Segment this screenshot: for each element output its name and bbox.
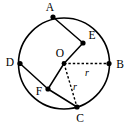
point-label-e: E (88, 29, 95, 41)
vertex-dot-e (80, 40, 85, 45)
segment-e-o (64, 43, 83, 64)
point-label-o-center: O (56, 47, 64, 59)
vertex-dot-o-center (62, 61, 67, 66)
point-label-a: A (46, 1, 55, 13)
vertex-dot-b (106, 61, 111, 66)
vertex-dot-d (17, 61, 22, 66)
vertex-dot-a (50, 14, 55, 19)
point-label-c: C (76, 112, 84, 124)
point-label-f: F (36, 85, 42, 97)
point-label-d: D (6, 56, 14, 68)
vertex-dot-c (74, 104, 79, 109)
circle-geometry-diagram: A E B C F D O r r (0, 0, 129, 127)
geometry-canvas: A E B C F D O r r (0, 0, 129, 127)
point-label-b: B (116, 58, 124, 70)
vertex-dot-f (45, 86, 50, 91)
radius-label-ob: r (85, 67, 89, 78)
radius-label-oc: r (73, 81, 77, 92)
segment-o-f (48, 64, 64, 90)
